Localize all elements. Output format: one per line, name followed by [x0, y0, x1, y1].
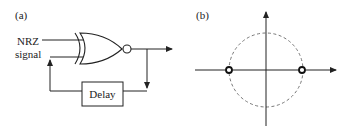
panel-b: (b): [195, 9, 336, 126]
delay-label: Delay: [89, 88, 116, 100]
nrz-label: NRZ: [17, 35, 39, 47]
diagram-canvas: (a) NRZ signal Delay (b): [0, 0, 352, 131]
panel-b-label: (b): [196, 9, 209, 22]
left-point-icon: [226, 67, 232, 73]
feedback-wire: [50, 60, 82, 91]
panel-a: (a) NRZ signal Delay: [15, 9, 172, 106]
signal-label: signal: [15, 48, 41, 60]
inverter-bubble-icon: [123, 45, 131, 53]
panel-a-label: (a): [15, 9, 28, 22]
right-point-icon: [299, 67, 305, 73]
xnor-gate-icon: [75, 33, 131, 64]
